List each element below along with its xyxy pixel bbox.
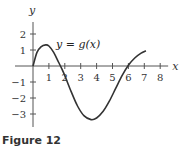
y-tick-label: 2	[20, 29, 26, 40]
y-axis-label: y	[28, 4, 36, 17]
curve-label: y = g(x)	[55, 38, 100, 51]
x-tick-label: 4	[93, 72, 99, 83]
x-tick-label: 3	[78, 72, 84, 83]
x-tick-label: 6	[125, 72, 131, 83]
figure-caption: Figure 12	[2, 134, 61, 147]
x-axis-label: x	[172, 60, 179, 73]
y-tick-label: −3	[11, 109, 26, 120]
y-tick-label: 1	[20, 45, 26, 56]
x-tick-label: 1	[46, 72, 52, 83]
y-tick-label: −1	[11, 77, 26, 88]
x-tick-label: 7	[141, 72, 147, 83]
x-tick-label: 5	[109, 72, 115, 83]
y-tick-label: −2	[11, 93, 26, 104]
graph-of-g: 12345678−3−2−112xyy = g(x)	[0, 0, 188, 135]
x-tick-label: 8	[157, 72, 163, 83]
